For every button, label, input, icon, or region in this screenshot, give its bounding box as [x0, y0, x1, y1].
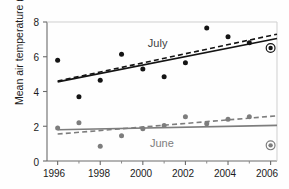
chart-figure: Mean air temperature (°C) 8 6 4 2 0 1996…	[0, 0, 289, 189]
trend-lines	[58, 34, 277, 134]
data-points	[55, 26, 275, 150]
axes-frame	[47, 22, 277, 161]
plot-area	[0, 0, 289, 189]
